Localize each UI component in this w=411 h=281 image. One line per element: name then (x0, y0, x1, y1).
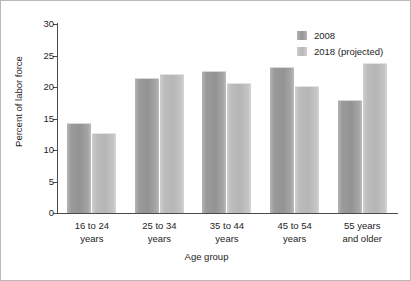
x-tick-label-line: 45 to 54 (261, 220, 329, 233)
bar-chart-figure: Percent of labor force 051015202530 Age … (0, 0, 411, 281)
legend-item-2008: 2008 (297, 28, 383, 42)
x-tick-label-line: and older (328, 233, 396, 246)
bar-2018-1 (92, 133, 116, 213)
legend-item-2018: 2018 (projected) (297, 44, 383, 58)
bar-2018-3 (227, 83, 251, 213)
x-axis-line (57, 213, 398, 214)
y-tick-label: 0 (49, 208, 54, 218)
y-tick-label: 5 (49, 177, 54, 187)
y-tick-label: 30 (43, 19, 54, 29)
x-tick-label-line: 16 to 24 (58, 220, 126, 233)
y-axis-title: Percent of labor force (13, 37, 24, 167)
y-tick-label: 10 (43, 145, 54, 155)
bar-2008-1 (67, 123, 91, 213)
y-tick-label: 20 (43, 82, 54, 92)
bar-group-3 (193, 24, 261, 213)
bar-2018-2 (160, 74, 184, 213)
x-tick-label-line: 55 years (328, 220, 396, 233)
x-tick-label-line: years (58, 233, 126, 246)
bar-group-2 (126, 24, 194, 213)
legend-label-2018: 2018 (projected) (314, 46, 383, 57)
bar-2018-5 (363, 63, 387, 213)
legend-swatch-icon-2008 (297, 31, 307, 40)
x-tick-label-line: 35 to 44 (193, 220, 261, 233)
bar-2008-2 (135, 78, 159, 213)
y-tick-label: 15 (43, 114, 54, 124)
x-tick-label-4: 45 to 54years (261, 220, 329, 245)
x-tick-label-2: 25 to 34years (126, 220, 194, 245)
legend-label-2008: 2008 (314, 30, 335, 41)
x-axis-title: Age group (1, 251, 411, 262)
bar-group-1 (58, 24, 126, 213)
bar-2018-4 (295, 86, 319, 213)
x-tick-label-line: years (261, 233, 329, 246)
bar-2008-5 (338, 100, 362, 213)
x-tick-label-3: 35 to 44years (193, 220, 261, 245)
x-tick-label-1: 16 to 24years (58, 220, 126, 245)
y-tick-label: 25 (43, 51, 54, 61)
chart-legend: 2008 2018 (projected) (297, 28, 383, 60)
x-tick-label-5: 55 yearsand older (328, 220, 396, 245)
x-tick-label-line: years (126, 233, 194, 246)
bar-2008-4 (270, 67, 294, 213)
legend-swatch-icon-2018 (297, 47, 307, 56)
bar-2008-3 (202, 71, 226, 213)
x-tick-label-line: years (193, 233, 261, 246)
x-tick-label-line: 25 to 34 (126, 220, 194, 233)
